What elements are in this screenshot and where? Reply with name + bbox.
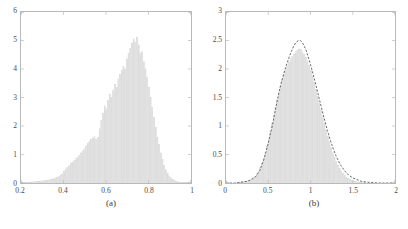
histogram-bar — [123, 66, 124, 183]
histogram-bar — [177, 182, 178, 183]
histogram-bar — [348, 178, 349, 183]
histogram-bar — [106, 109, 107, 183]
histogram-bar — [99, 129, 100, 183]
histogram-bar — [358, 182, 359, 183]
histogram-bar — [334, 157, 335, 183]
histogram-bar — [74, 161, 75, 183]
histogram-bar — [33, 182, 34, 183]
histogram-bar — [52, 179, 53, 183]
histogram-bar — [166, 170, 167, 183]
histogram-bar — [159, 145, 160, 183]
histogram-bar — [75, 159, 76, 183]
histogram-bar — [354, 181, 355, 183]
x-tick-label: 1 — [190, 187, 194, 195]
histogram-bar — [50, 180, 51, 183]
histogram-bar — [363, 182, 364, 183]
histogram-bar — [183, 182, 184, 183]
histogram-bar — [36, 182, 37, 183]
histogram-bar — [280, 86, 281, 183]
y-tick-label: 3 — [0, 94, 17, 102]
histogram-bar — [339, 168, 340, 183]
histogram-bar — [240, 182, 241, 183]
histogram-bars — [238, 49, 366, 183]
x-tick-label: 0.6 — [101, 187, 110, 195]
histogram-bar — [125, 69, 126, 183]
histogram-bar — [79, 155, 80, 183]
histogram-bar — [273, 116, 274, 183]
histogram-bar — [294, 54, 295, 183]
histogram-bar — [38, 182, 39, 183]
histogram-bar — [292, 56, 293, 183]
histogram-bar — [86, 146, 87, 183]
histogram-bar — [133, 39, 134, 183]
histogram-bar — [329, 142, 330, 183]
histogram-bar — [349, 180, 350, 183]
histogram-bar — [263, 158, 264, 183]
histogram-bar — [176, 181, 177, 183]
histogram-bar — [174, 180, 175, 183]
histogram-bar — [283, 75, 284, 183]
histogram-bar — [24, 182, 25, 183]
histogram-bar — [28, 182, 29, 183]
histogram-bar — [270, 132, 271, 183]
histogram-bar — [77, 157, 78, 183]
panel-caption-b: (b) — [204, 199, 408, 208]
histogram-bar — [327, 136, 328, 183]
histogram-bar — [365, 182, 366, 183]
y-tick-label: 3 — [204, 7, 222, 15]
y-tick-label: 6 — [0, 7, 17, 15]
histogram-bar — [155, 127, 156, 183]
histogram-bar — [267, 147, 268, 183]
histogram-bar — [356, 182, 357, 183]
histogram-bar — [321, 110, 322, 183]
histogram-bar — [314, 83, 315, 183]
histogram-bar — [295, 52, 296, 183]
histogram-bar — [311, 71, 312, 183]
histogram-bar — [147, 78, 148, 183]
x-tick-label: 2 — [394, 187, 398, 195]
x-tick-label: 0.4 — [58, 187, 67, 195]
histogram-bar — [289, 62, 290, 183]
histogram-bar — [172, 179, 173, 183]
plot-area-a — [20, 11, 192, 184]
histogram-bar — [278, 93, 279, 183]
y-tick-label: 0.5 — [204, 151, 222, 159]
histogram-bar — [47, 180, 48, 183]
histogram-bar — [30, 182, 31, 183]
histogram-bar — [101, 120, 102, 183]
histogram-bar — [108, 100, 109, 183]
histogram-bar — [138, 45, 139, 183]
histogram-bar — [343, 173, 344, 183]
panel-caption-a: (a) — [0, 199, 204, 208]
histogram-bar — [150, 98, 151, 184]
histogram-bar — [120, 75, 121, 183]
histogram-bar — [94, 137, 95, 183]
histogram-bar — [96, 140, 97, 183]
histogram-bar — [319, 103, 320, 183]
histogram-bar — [297, 50, 298, 183]
histogram-bar — [41, 181, 42, 183]
y-tick-label: 2.5 — [204, 36, 222, 44]
histogram-bar — [300, 50, 301, 183]
histogram-bar — [360, 182, 361, 183]
x-tick-label: 1 — [309, 187, 313, 195]
histogram-bar — [304, 54, 305, 183]
histogram-bar — [145, 69, 146, 183]
x-tick-label: 0.8 — [144, 187, 153, 195]
histogram-bar — [116, 88, 117, 183]
histogram-bar — [277, 100, 278, 183]
histogram-bar — [142, 52, 143, 183]
histogram-bar — [290, 59, 291, 183]
histogram-bar — [169, 176, 170, 183]
y-tick-label: 1 — [0, 151, 17, 159]
y-tick-label: 0 — [204, 180, 222, 188]
histogram-bar — [305, 58, 306, 183]
histogram-bar — [302, 52, 303, 183]
histogram-bar — [126, 59, 127, 183]
histogram-bar — [171, 178, 172, 183]
histogram-bar — [299, 49, 300, 183]
histogram-bar — [361, 182, 362, 183]
histogram-bar — [143, 62, 144, 183]
panel-a: 0123456 0.20.40.60.81 (a) — [0, 0, 204, 229]
histogram-bar — [31, 182, 32, 183]
